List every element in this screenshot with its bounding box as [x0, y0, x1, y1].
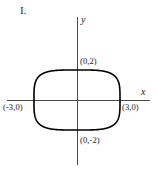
y-axis-line: [77, 17, 78, 165]
x-axis-label: x: [141, 87, 145, 97]
y-axis-label: y: [81, 15, 85, 25]
graph-figure: I. y x (0,2) (0,-2) (-3,0) (3,0): [0, 0, 157, 172]
point-label-top: (0,2): [80, 57, 97, 66]
point-label-right: (3,0): [122, 103, 139, 112]
point-label-left: (-3,0): [3, 103, 23, 112]
point-label-bottom: (0,-2): [80, 136, 100, 145]
superellipse-curve: [0, 0, 157, 172]
problem-number-label: I.: [20, 4, 27, 16]
x-axis-line: [7, 100, 150, 101]
